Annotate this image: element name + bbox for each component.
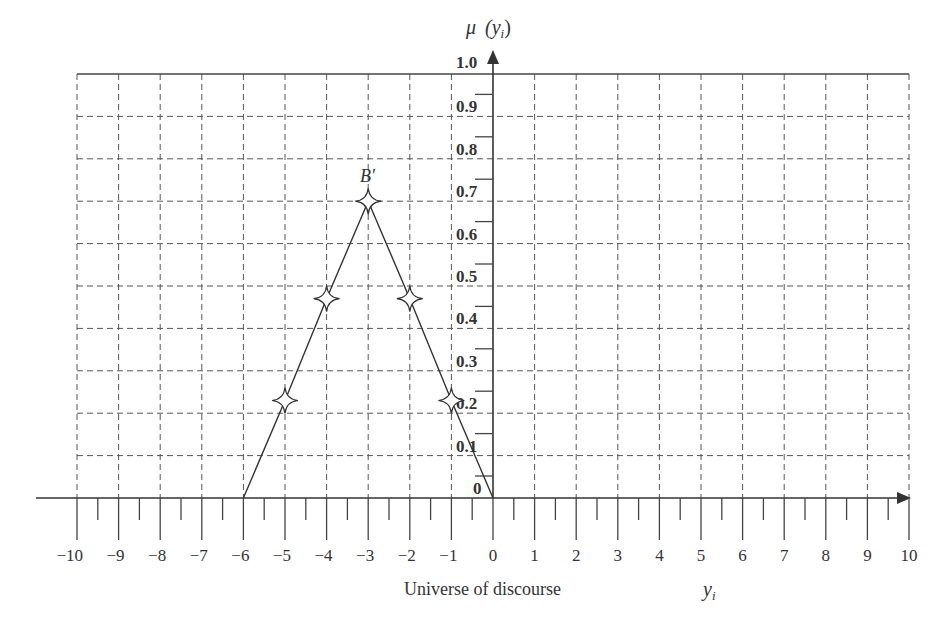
star-marker-icon (355, 188, 381, 214)
y-tick-label: 0.9 (456, 97, 477, 116)
y-tick-label: 0.6 (456, 225, 477, 244)
series-label-b-prime: B′ (360, 166, 376, 186)
y-tick-label: 0.8 (456, 140, 477, 159)
x-tick-label: −10 (56, 546, 83, 565)
x-tick-label: 9 (863, 546, 872, 565)
y-axis-ticks: 00.10.20.30.40.50.60.70.80.91.0 (456, 53, 493, 498)
y-tick-label: 0.4 (456, 309, 478, 328)
y-tick-label: 0 (473, 479, 482, 498)
y-tick-label: 0.5 (456, 267, 477, 286)
star-marker-icon (397, 286, 423, 312)
x-tick-label: 1 (530, 546, 539, 565)
x-tick-label: 0 (489, 546, 498, 565)
x-tick-label: −3 (356, 546, 374, 565)
x-tick-label: −2 (398, 546, 416, 565)
star-marker-icon (272, 387, 298, 413)
x-tick-label: 2 (572, 546, 581, 565)
x-tick-label: 8 (822, 546, 831, 565)
y-axis-arrow-icon (487, 50, 499, 64)
x-tick-label: −1 (439, 546, 457, 565)
star-marker-icon (314, 286, 340, 312)
y-tick-label: 0.2 (456, 394, 477, 413)
x-tick-label: −6 (231, 546, 249, 565)
x-tick-label: 10 (901, 546, 918, 565)
x-tick-label: 6 (738, 546, 747, 565)
x-tick-label: 7 (780, 546, 789, 565)
x-tick-label: −5 (273, 546, 291, 565)
y-tick-label: 0.7 (456, 182, 478, 201)
x-tick-label: −7 (190, 546, 209, 565)
x-tick-label: −9 (107, 546, 125, 565)
x-tick-label: 3 (614, 546, 623, 565)
x-axis-caption: Universe of discourse (404, 579, 561, 599)
y-tick-label: 0.3 (456, 352, 477, 371)
x-tick-label: −8 (148, 546, 166, 565)
y-tick-label: 1.0 (456, 53, 477, 72)
x-tick-label: 4 (655, 546, 664, 565)
y-axis-label: μ (yi) (465, 16, 511, 41)
x-tick-label: −4 (315, 546, 334, 565)
membership-function-chart: 00.10.20.30.40.50.60.70.80.91.0 −10−9−8−… (0, 0, 951, 633)
x-axis-variable: yi (701, 578, 716, 603)
x-tick-label: 5 (697, 546, 706, 565)
x-axis-ticks: −10−9−8−7−6−5−4−3−2−1012345678910 (56, 498, 917, 565)
